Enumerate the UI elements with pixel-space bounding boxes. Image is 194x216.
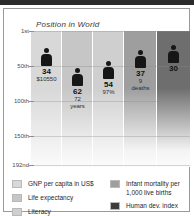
label-life-expectancy: 62 72 years	[62, 87, 93, 110]
legend-column-left: GNP per capita in US$ Life expectancy Li…	[12, 179, 104, 216]
y-tick-100th: 100th	[14, 98, 29, 104]
legend-swatch-life-expectancy	[12, 194, 22, 202]
legend-column-right: Infant mortality per1,000 live births Hu…	[110, 179, 194, 215]
y-tickmark-150th	[29, 136, 34, 137]
legend: GNP per capita in US$ Life expectancy Li…	[12, 179, 190, 216]
y-tickmark-192nd	[29, 165, 34, 166]
detail-gnp: $10550	[31, 76, 62, 83]
gridline-150th	[31, 136, 190, 137]
marker-infant-mortality	[134, 50, 147, 68]
gridline-192nd	[31, 165, 190, 166]
y-tick-150th: 150th	[14, 133, 29, 139]
rank-value-literacy: 54	[93, 80, 124, 89]
legend-item-gnp: GNP per capita in US$	[12, 179, 104, 190]
person-body-icon	[41, 54, 52, 66]
legend-label-life-expectancy: Life expectancy	[28, 193, 104, 202]
legend-item-life-expectancy: Life expectancy	[12, 193, 104, 204]
person-body-icon	[168, 51, 179, 63]
legend-item-human-dev-index: Human dev. index	[110, 201, 194, 212]
legend-label-gnp: GNP per capita in US$	[28, 179, 104, 188]
chart-figure: Position in World 34 $10550	[0, 0, 194, 216]
label-gnp: 34 $10550	[31, 67, 62, 83]
rank-value-life-expectancy: 62	[62, 87, 93, 96]
detail-life-expectancy-unit: years	[62, 103, 93, 110]
plot-area: 34 $10550 62 72 years 54 97%	[31, 31, 190, 167]
marker-literacy	[102, 61, 115, 79]
chart-title: Position in World	[36, 20, 99, 29]
gridline-100th	[31, 101, 190, 102]
person-body-icon	[135, 56, 146, 68]
marker-gnp	[40, 48, 53, 66]
detail-life-expectancy-years: 72	[62, 96, 93, 103]
person-body-icon	[103, 67, 114, 79]
legend-label-literacy: Literacy	[28, 207, 104, 216]
rank-value-human-dev-index: 30	[157, 64, 190, 73]
person-head-icon	[44, 48, 49, 53]
y-axis: 1st 50th 100th 150th 192nd	[7, 31, 29, 167]
legend-swatch-infant-mortality	[110, 180, 120, 188]
detail-infant-mortality-unit: deaths	[124, 85, 157, 92]
y-tickmark-100th	[29, 101, 34, 102]
label-literacy: 54 97%	[93, 80, 124, 96]
y-tick-50th: 50th	[17, 63, 29, 69]
gridline-1st	[31, 31, 190, 32]
legend-item-literacy: Literacy	[12, 207, 104, 216]
y-tick-1st: 1st	[21, 28, 29, 34]
page-top-strip	[0, 0, 194, 5]
legend-label-infant-mortality: Infant mortality per1,000 live births	[126, 179, 194, 198]
y-tickmark-1st	[29, 31, 34, 32]
detail-literacy: 97%	[93, 89, 124, 96]
rank-value-infant-mortality: 37	[124, 69, 157, 78]
person-head-icon	[75, 68, 80, 73]
marker-human-dev-index	[167, 45, 180, 63]
person-body-icon	[72, 74, 83, 86]
label-human-dev-index: 30	[157, 64, 190, 73]
y-tickmark-50th	[29, 66, 34, 67]
legend-label-human-dev-index: Human dev. index	[126, 201, 194, 210]
y-tick-192nd: 192nd	[12, 162, 29, 168]
column-literacy	[93, 31, 124, 167]
rank-value-gnp: 34	[31, 67, 62, 76]
legend-swatch-gnp	[12, 180, 22, 188]
label-infant-mortality: 37 9 deaths	[124, 69, 157, 92]
legend-swatch-human-dev-index	[110, 202, 120, 210]
person-head-icon	[138, 50, 143, 55]
marker-life-expectancy	[71, 68, 84, 86]
legend-item-infant-mortality: Infant mortality per1,000 live births	[110, 179, 194, 198]
person-head-icon	[106, 61, 111, 66]
person-head-icon	[171, 45, 176, 50]
detail-infant-mortality-count: 9	[124, 78, 157, 85]
figure-frame: Position in World 34 $10550	[3, 8, 190, 212]
legend-swatch-literacy	[12, 208, 22, 216]
